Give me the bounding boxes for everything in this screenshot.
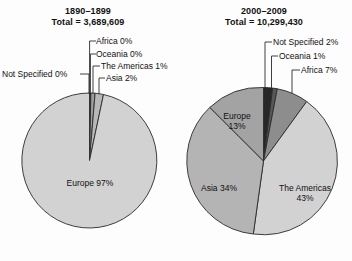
left-label-europe: Europe 97% bbox=[46, 178, 134, 188]
left-callout-asia: Asia 2% bbox=[106, 73, 137, 83]
pie-chart-figure: 1890–1899 Total = 3,689,609 Africa 0% bbox=[0, 0, 352, 261]
right-label-europe-pct: 13% bbox=[228, 121, 245, 131]
right-leader-oceania bbox=[272, 56, 279, 89]
left-chart-panel: 1890–1899 Total = 3,689,609 Africa 0% bbox=[0, 0, 176, 261]
left-callout-not-specified: Not Specified 0% bbox=[2, 69, 67, 79]
left-slice-europe bbox=[22, 93, 157, 228]
left-leader-asia bbox=[99, 78, 105, 94]
right-label-americas-pct: 43% bbox=[296, 193, 313, 203]
left-callout-africa: Africa 0% bbox=[96, 36, 132, 46]
left-callout-oceania: Oceania 0% bbox=[96, 49, 142, 59]
right-leader-africa bbox=[292, 70, 300, 94]
right-callout-africa: Africa 7% bbox=[301, 65, 337, 75]
left-leader-not-specified bbox=[80, 74, 89, 94]
left-callout-americas: The Americas 1% bbox=[101, 61, 168, 71]
right-label-europe-name: Europe bbox=[223, 111, 250, 121]
right-label-europe: Europe 13% bbox=[202, 111, 272, 131]
right-label-americas: The Americas 43% bbox=[262, 183, 348, 203]
left-pie-svg bbox=[0, 0, 176, 261]
right-callout-oceania: Oceania 1% bbox=[279, 51, 325, 61]
right-chart-panel: 2000–2009 Total = 10,299,430 Not Specifi… bbox=[176, 0, 352, 261]
right-callout-not-specified: Not Specified 2% bbox=[273, 37, 338, 47]
right-leader-not-specified bbox=[265, 42, 272, 89]
right-label-americas-name: The Americas bbox=[279, 183, 331, 193]
right-label-asia: Asia 34% bbox=[181, 183, 257, 193]
